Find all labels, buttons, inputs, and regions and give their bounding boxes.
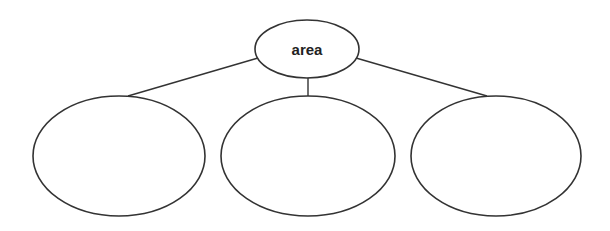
- concept-map: area: [0, 0, 610, 231]
- diagram-svg: [0, 0, 610, 231]
- connector-line-1: [128, 58, 258, 96]
- root-node-label: area: [292, 41, 323, 58]
- child-ellipse-3[interactable]: [411, 96, 581, 216]
- connector-line-3: [356, 58, 487, 96]
- child-ellipse-1[interactable]: [33, 96, 205, 216]
- child-ellipse-2[interactable]: [221, 96, 395, 216]
